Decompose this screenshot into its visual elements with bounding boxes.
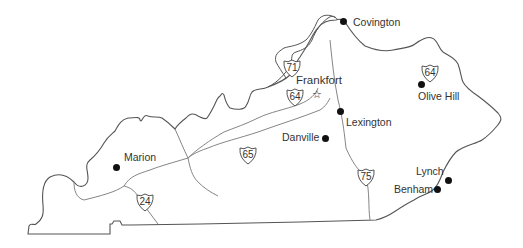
kentucky-map: Covington Frankfort ☆ Lexington Olive Hi… (0, 0, 523, 248)
interstate-shield-75: 75 (356, 168, 376, 188)
city-dot-lynch[interactable] (445, 177, 452, 184)
road-south (188, 158, 218, 196)
city-dot-lexington[interactable] (337, 108, 344, 115)
state-border (28, 19, 501, 234)
i75-road (330, 40, 370, 220)
interstate-shield-24: 24 (135, 193, 155, 213)
city-dot-benham[interactable] (434, 186, 441, 193)
interstate-shield-71: 71 (282, 59, 302, 79)
interstate-shield-64-east: 64 (420, 64, 440, 84)
city-label-danville: Danville (282, 132, 319, 143)
shield-number: 64 (420, 68, 440, 78)
shield-number: 64 (285, 92, 305, 102)
capital-star-icon[interactable]: ☆ (312, 89, 322, 100)
interstate-shield-65: 65 (238, 146, 258, 166)
i64-road (188, 98, 330, 158)
city-dot-covington[interactable] (340, 18, 347, 25)
shield-number: 71 (282, 63, 302, 73)
city-label-benham: Benham (394, 184, 433, 195)
interstate-shield-64-west: 64 (285, 88, 305, 108)
shield-number: 75 (356, 172, 376, 182)
city-label-olive-hill: Olive Hill (418, 91, 459, 102)
city-dot-danville[interactable] (322, 135, 329, 142)
city-label-lexington: Lexington (346, 117, 392, 128)
city-label-covington: Covington (353, 17, 400, 28)
shield-number: 65 (238, 150, 258, 160)
city-label-frankfort: Frankfort (296, 75, 342, 87)
city-label-marion: Marion (124, 152, 156, 163)
shield-number: 24 (135, 197, 155, 207)
map-lines (0, 0, 523, 248)
city-dot-marion[interactable] (113, 164, 120, 171)
city-label-lynch: Lynch (416, 166, 444, 177)
